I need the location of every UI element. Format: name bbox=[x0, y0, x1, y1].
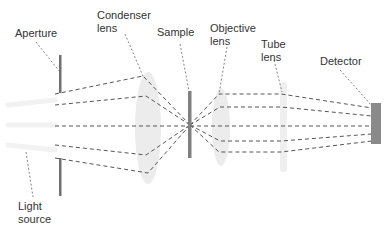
objective-leader bbox=[219, 47, 227, 94]
sample-slide bbox=[188, 91, 192, 158]
light-source-label: Light source bbox=[18, 200, 51, 226]
aperture-bottom bbox=[59, 158, 62, 196]
condenser-leader bbox=[125, 34, 143, 76]
condenser-lens bbox=[135, 72, 161, 184]
aperture-leader bbox=[36, 42, 60, 72]
sample-leader bbox=[180, 44, 189, 91]
tube-leader bbox=[274, 60, 282, 92]
objective-lens bbox=[212, 88, 230, 166]
tube-lens-label: Tube lens bbox=[261, 38, 286, 64]
light-source-glow bbox=[8, 100, 55, 150]
aperture-label: Aperture bbox=[15, 27, 57, 40]
microscope-optical-path-diagram bbox=[0, 0, 391, 232]
detector bbox=[371, 103, 381, 144]
condenser-lens-label: Condenser lens bbox=[97, 9, 151, 35]
sample-label: Sample bbox=[157, 26, 194, 39]
tube-lens bbox=[280, 82, 287, 172]
detector-leader bbox=[340, 70, 372, 106]
detector-label: Detector bbox=[320, 55, 362, 68]
aperture-top bbox=[59, 55, 62, 93]
light-source-leader bbox=[26, 152, 33, 197]
objective-lens-label: Objective lens bbox=[210, 22, 256, 48]
